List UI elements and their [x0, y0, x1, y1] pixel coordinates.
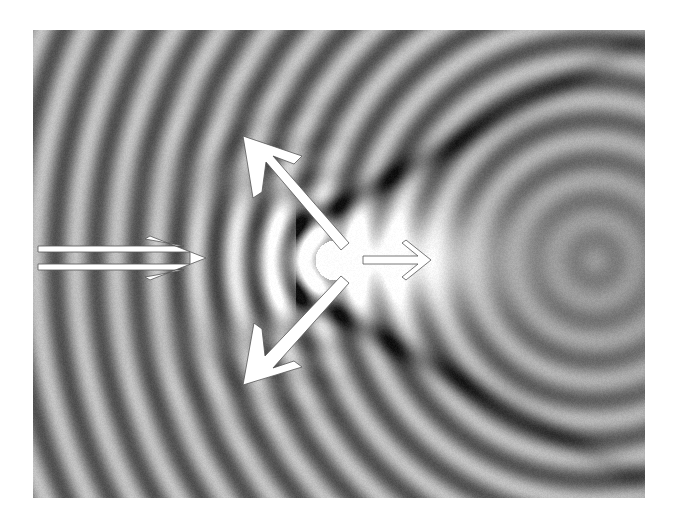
transmitted-wave-icon: [363, 240, 431, 280]
scattered-wave-down-left-icon: [243, 276, 349, 385]
incident-wave-arrow: [38, 236, 206, 280]
scattered-wave-up-left-icon: [243, 136, 349, 250]
wave-scattering-figure: [0, 0, 676, 522]
arrow-overlay: [0, 0, 676, 522]
